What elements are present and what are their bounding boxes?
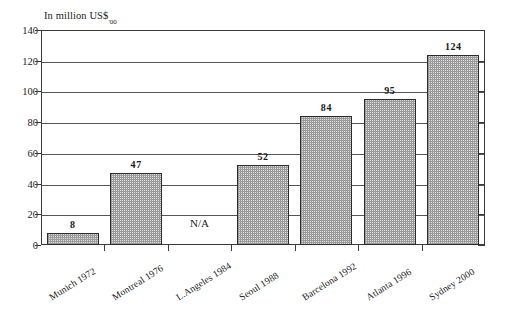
bar-value-label: 8 <box>43 219 103 230</box>
x-axis-tick-mark <box>231 245 232 251</box>
x-axis-category-label: Montreal 1976 <box>110 262 165 302</box>
y-axis-tick-label: 100 <box>4 86 38 97</box>
bar <box>47 233 99 245</box>
y-axis-tick-mark <box>35 245 41 246</box>
y-axis-tick-label: 0 <box>4 240 38 251</box>
axis-title-subscript: '00 <box>108 18 117 26</box>
bars-layer: 847N/A528495124 <box>41 30 485 245</box>
x-axis-category-label: Barcelona 1992 <box>300 260 358 302</box>
bar <box>110 173 162 245</box>
y-axis-tick-label: 120 <box>4 55 38 66</box>
bar <box>237 165 289 245</box>
chart-axis-title: In million US$'00 <box>44 10 117 24</box>
y-axis-tick-label: 60 <box>4 147 38 158</box>
bar <box>300 116 352 245</box>
y-axis-tick-label: 80 <box>4 117 38 128</box>
bar <box>364 99 416 245</box>
bar-value-label: 47 <box>106 159 166 170</box>
x-axis-tick-mark <box>104 245 105 251</box>
x-axis-tick-mark <box>295 245 296 251</box>
x-axis-tick-mark <box>358 245 359 251</box>
x-axis-category-label: L.Angeles 1984 <box>174 260 233 303</box>
bar-value-label: 124 <box>423 41 483 52</box>
x-axis-tick-mark <box>422 245 423 251</box>
axis-title-main: In million US$ <box>44 10 108 21</box>
bar-value-label: 95 <box>360 85 420 96</box>
bar-value-label: 84 <box>296 102 356 113</box>
bar <box>427 55 479 245</box>
x-axis-category-label: Atlanta 1996 <box>364 266 413 302</box>
y-axis-tick-label: 140 <box>4 25 38 36</box>
x-axis-category-label: Sydney 2000 <box>427 266 476 303</box>
x-axis-tick-mark <box>168 245 169 251</box>
y-axis-tick-mark-right <box>478 245 485 246</box>
y-axis-tick-label: 40 <box>4 178 38 189</box>
x-axis-category-label: Munich 1972 <box>47 265 97 302</box>
y-axis: 020406080100120140 <box>0 30 38 245</box>
bar-value-label: 52 <box>233 151 293 162</box>
bar-chart: In million US$'00 020406080100120140 847… <box>0 0 508 326</box>
y-axis-tick-label: 20 <box>4 209 38 220</box>
x-axis-category-label: Seoul 1988 <box>237 269 281 302</box>
bar-missing-label: N/A <box>170 217 230 229</box>
